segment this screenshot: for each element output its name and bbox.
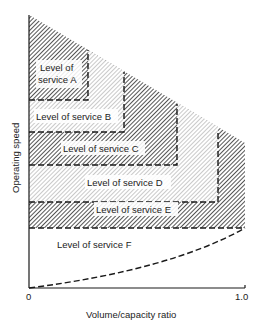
region-f — [29, 228, 245, 290]
label-a-line1: Level of — [40, 62, 74, 73]
label-d: Level of service D — [87, 177, 163, 188]
x-tick-label-end: 1.0 — [235, 291, 248, 302]
label-a-line2: service A — [38, 74, 77, 85]
label-c: Level of service C — [63, 143, 139, 154]
x-tick-label-start: 0 — [26, 291, 31, 302]
x-axis-label: Volume/capacity ratio — [86, 309, 176, 320]
y-axis-label: Operating speed — [10, 123, 21, 193]
los-diagram: Level of service A Level of service B Le… — [0, 0, 261, 334]
label-b: Level of service B — [36, 111, 111, 122]
label-f: Level of service F — [57, 239, 132, 250]
label-e: Level of service E — [96, 204, 171, 215]
